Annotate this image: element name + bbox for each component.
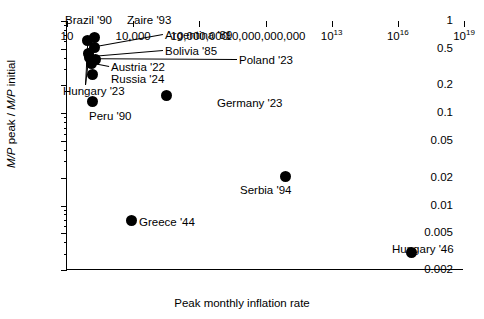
y-tick-label-0-02: 0.02 [431, 172, 453, 184]
y-tick-0-002 [61, 270, 67, 271]
datapoint-russia-24 [87, 69, 98, 80]
x-tick-label: 1019 [453, 31, 475, 43]
x-tick [398, 21, 399, 27]
y-axis-title-initial-word: initial [5, 60, 17, 89]
y-minor-tick [64, 117, 68, 118]
x-axis-title: Peak monthly inflation rate [0, 297, 484, 309]
x-tick [332, 21, 333, 27]
y-tick-label-0-01: 0.01 [431, 200, 453, 212]
datapoint-germany-23 [161, 90, 172, 101]
y-tick-label-0-002: 0.002 [424, 264, 453, 276]
x-tick-label: 1013 [321, 31, 343, 43]
x-tick [464, 21, 465, 27]
annotation-bolivia: Bolivia '85 [165, 45, 217, 57]
plot-area: 10.50.20.10.050.020.010.0050.002 1010,00… [66, 21, 463, 270]
y-minor-tick [64, 134, 68, 135]
annotation-hungary46: Hungary '46 [392, 243, 454, 255]
y-minor-tick [64, 214, 68, 215]
annotation-zaire: Zaire '93 [127, 14, 171, 26]
annotation-serbia: Serbia '94 [240, 184, 291, 196]
datapoint-serbia-94 [280, 171, 291, 182]
x-tick [199, 21, 200, 27]
annotation-hungary23: Hungary '23 [63, 85, 125, 97]
annotation-brazil: Brazil '90 [65, 14, 112, 26]
y-minor-tick [64, 122, 68, 123]
annotation-peru: Peru '90 [89, 110, 131, 122]
x-tick-label: 1016 [387, 31, 409, 43]
y-tick-label-1: 1 [447, 15, 453, 27]
datapoint-austria-22 [86, 58, 97, 69]
annotation-greece: Greece '44 [139, 216, 195, 228]
y-tick-0-02 [61, 178, 67, 179]
y-tick-label-0-1: 0.1 [437, 107, 453, 119]
y-axis-title: M/P peak / M/P initial [5, 39, 17, 189]
y-tick-label-0-2: 0.2 [437, 79, 453, 91]
annotation-russia: Russia '24 [111, 73, 164, 85]
y-minor-tick [64, 161, 68, 162]
y-minor-tick [64, 220, 68, 221]
y-minor-tick [64, 210, 68, 211]
annotation-argentina: Argentina '89 [165, 29, 232, 41]
annotation-germany: Germany '23 [217, 97, 282, 109]
y-tick-label-0-05: 0.05 [431, 135, 453, 147]
y-minor-tick [64, 150, 68, 151]
datapoint-greece-44 [126, 215, 137, 226]
y-minor-tick [64, 69, 68, 70]
annotation-austria: Austria '22 [111, 61, 165, 73]
x-tick-label: 10 [61, 31, 74, 43]
y-tick-label-0-5: 0.5 [437, 43, 453, 55]
leader-line [94, 50, 163, 57]
x-tick-label: 10,000,000,000 [226, 31, 306, 43]
annotation-poland: Poland '23 [239, 54, 293, 66]
y-tick-0-05 [61, 141, 67, 142]
x-tick [266, 21, 267, 27]
y-tick-0-01 [61, 206, 67, 207]
leader-line [100, 58, 237, 60]
y-axis-title-mp-peak: M/P [5, 148, 17, 168]
y-minor-tick [64, 242, 68, 243]
y-minor-tick [64, 58, 68, 59]
inflation-scatter-figure: M/P peak / M/P initial Peak monthly infl… [0, 0, 484, 319]
y-axis-title-mp-initial: M/P [5, 89, 17, 109]
y-tick-0-1 [61, 113, 67, 114]
y-tick-0-5 [61, 49, 67, 50]
y-minor-tick [64, 254, 68, 255]
y-axis-title-peak-word: peak / [5, 110, 17, 148]
y-minor-tick [64, 226, 68, 227]
y-tick-label-0-005: 0.005 [424, 227, 453, 239]
y-tick-0-005 [61, 233, 67, 234]
y-minor-tick [64, 128, 68, 129]
